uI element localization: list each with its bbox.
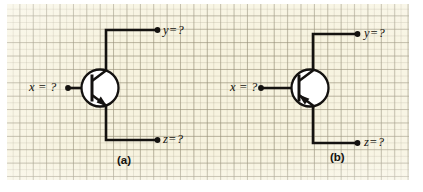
panel-caption-a: (a) [117,155,131,167]
graph-paper-background [7,4,409,180]
base-label-b: x = ? [230,81,257,94]
collector-label-a: y=? [163,24,184,37]
panel-caption-b: (b) [330,152,345,164]
emitter-label-b: z=? [364,136,384,149]
emitter-label-a: z=? [163,133,183,146]
collector-label-b: y=? [364,27,385,40]
figure-canvas: x = ? y=? z=? (a) x = ? y=? z=? (b) [0,0,423,192]
base-label-a: x = ? [29,81,56,94]
